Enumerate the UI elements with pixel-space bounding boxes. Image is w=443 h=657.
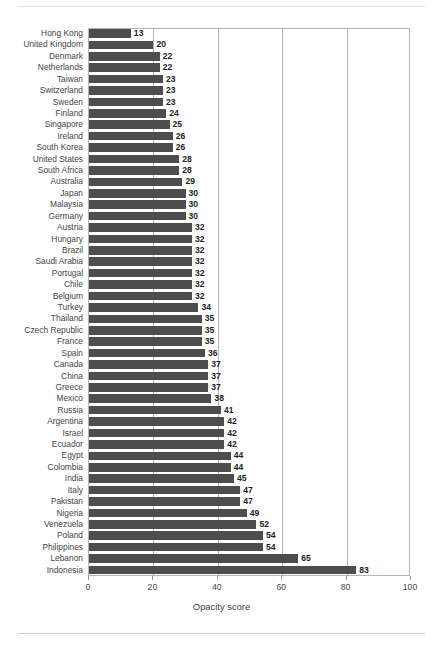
bar [89,406,221,415]
bar [89,429,224,438]
bar-value-label: 13 [134,28,144,39]
bar-value-label: 34 [201,302,211,313]
bar-row: Sweden23 [0,97,443,108]
category-label: Nigeria [56,508,83,519]
bar-row: Thailand35 [0,313,443,324]
bar-value-label: 42 [227,428,237,439]
category-label: Japan [60,188,83,199]
category-label: Germany [49,211,83,222]
bar-row: Turkey34 [0,302,443,313]
bar-row: Chile32 [0,279,443,290]
category-label: Hong Kong [41,28,83,39]
bar-row: Austria32 [0,222,443,233]
bar-value-label: 26 [176,142,186,153]
bar [89,383,208,392]
bar-row: China37 [0,371,443,382]
bar-row: Taiwan23 [0,74,443,85]
bar [89,143,173,152]
bar-row: Israel42 [0,428,443,439]
x-axis-title: Opacity score [0,601,443,612]
bar-value-label: 47 [243,496,253,507]
bar-row: Germany30 [0,211,443,222]
bar-value-label: 28 [182,154,192,165]
bar-value-label: 32 [195,291,205,302]
bar [89,280,192,289]
category-label: Czech Republic [24,325,83,336]
category-label: Sweden [53,97,83,108]
bar [89,417,224,426]
bar [89,120,170,129]
bar-row: Ireland26 [0,131,443,142]
bar-row: France35 [0,336,443,347]
bar [89,269,192,278]
bar-value-label: 65 [301,553,311,564]
bar-value-label: 26 [176,131,186,142]
bar [89,166,179,175]
x-tick-mark [152,576,153,580]
bar-row: South Korea26 [0,142,443,153]
category-label: Singapore [45,119,83,130]
bar-row: South Africa28 [0,165,443,176]
bar-value-label: 38 [214,393,224,404]
bar-row: Greece37 [0,382,443,393]
bar-row: Portugal32 [0,268,443,279]
category-label: Denmark [49,51,83,62]
x-tick-label: 0 [86,582,91,592]
category-label: Argentina [47,416,83,427]
category-label: United Kingdom [23,39,83,50]
bar [89,52,160,61]
category-label: Netherlands [38,62,83,73]
bar-row: Netherlands22 [0,62,443,73]
bar [89,554,298,563]
x-tick-mark [281,576,282,580]
bar-value-label: 54 [266,530,276,541]
x-tick-label: 60 [276,582,286,592]
bar-value-label: 22 [163,51,173,62]
bar-value-label: 20 [156,39,166,50]
x-tick-mark [88,576,89,580]
category-label: Spain [62,348,83,359]
category-label: Poland [57,530,83,541]
bar-value-label: 44 [234,462,244,473]
bar-value-label: 30 [189,211,199,222]
bar-row: Hungary32 [0,234,443,245]
bar [89,178,182,187]
bar [89,452,231,461]
bar [89,223,192,232]
category-label: Lebanon [50,553,83,564]
bar [89,394,211,403]
bar-row: Nigeria49 [0,508,443,519]
bar-row: Singapore25 [0,119,443,130]
bar-row: Egypt44 [0,450,443,461]
bar [89,189,186,198]
bar-row: Finland24 [0,108,443,119]
bar-value-label: 32 [195,256,205,267]
category-label: Switzerland [40,85,83,96]
bar-value-label: 25 [173,119,183,130]
category-label: Greece [56,382,83,393]
bar-value-label: 32 [195,234,205,245]
bar [89,566,356,575]
opacity-score-bar-chart: Hong Kong13United Kingdom20Denmark22Neth… [0,0,443,657]
bar-row: Pakistan47 [0,496,443,507]
category-label: Venezuela [44,519,83,530]
bar [89,109,166,118]
bar-row: Colombia44 [0,462,443,473]
category-label: India [65,473,83,484]
x-tick-label: 100 [403,582,417,592]
bar-value-label: 32 [195,268,205,279]
category-label: Portugal [52,268,83,279]
bar [89,257,192,266]
bar [89,463,231,472]
bar-value-label: 23 [166,97,176,108]
bar [89,360,208,369]
bar-row: United States28 [0,154,443,165]
bar-value-label: 35 [205,325,215,336]
bottom-divider-rule [18,633,425,634]
bar [89,543,263,552]
bar-rows: Hong Kong13United Kingdom20Denmark22Neth… [0,28,443,576]
bar [89,349,205,358]
bar-row: Italy47 [0,485,443,496]
bar-row: Russia41 [0,405,443,416]
bar-value-label: 42 [227,439,237,450]
